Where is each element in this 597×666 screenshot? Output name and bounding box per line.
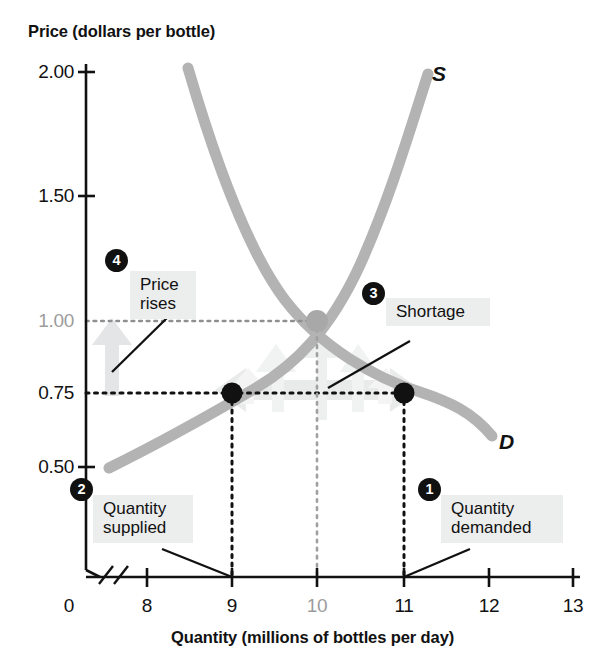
y-tick-label-2-00: 2.00 — [22, 61, 74, 83]
supply-curve-label: S — [432, 62, 446, 86]
demand-curve-label: D — [499, 430, 514, 454]
callout-shortage: Shortage — [386, 298, 490, 326]
x-tick-label-11: 11 — [388, 595, 420, 617]
y-tick-label-0-75: 0.75 — [22, 382, 74, 404]
badge-3: 3 — [362, 282, 385, 305]
x-tick-label-9: 9 — [219, 595, 245, 617]
x-axis-title: Quantity (millions of bottles per day) — [171, 628, 454, 647]
y-axis-title: Price (dollars per bottle) — [28, 22, 215, 41]
badge-4: 4 — [105, 249, 128, 272]
x-tick-label-13: 13 — [557, 595, 589, 617]
equilibrium-point — [306, 310, 328, 332]
supply-demand-chart: Price (dollars per bottle) Quantity (mil… — [0, 0, 597, 666]
badge-1: 1 — [418, 478, 441, 501]
y-tick-label-1-50: 1.50 — [22, 185, 74, 207]
chart-canvas — [0, 0, 597, 666]
callout-price-rises: Price rises — [130, 271, 196, 319]
leader-line-quantity-demanded — [404, 549, 470, 577]
axis-break-marks — [99, 566, 128, 584]
badge-2: 2 — [70, 478, 93, 501]
callout-quantity-supplied: Quantity supplied — [93, 495, 193, 543]
leader-line-quantity-supplied — [162, 549, 232, 577]
callout-quantity-demanded: Quantity demanded — [441, 495, 563, 543]
x-tick-label-12: 12 — [473, 595, 505, 617]
quantity-demanded-point — [394, 383, 415, 404]
y-tick-label-0-50: 0.50 — [22, 456, 74, 478]
x-tick-label-10: 10 — [301, 595, 333, 617]
x-tick-label-0: 0 — [56, 595, 82, 617]
x-tick-label-8: 8 — [134, 595, 160, 617]
y-tick-label-1-00: 1.00 — [22, 310, 74, 332]
quantity-supplied-point — [222, 383, 243, 404]
